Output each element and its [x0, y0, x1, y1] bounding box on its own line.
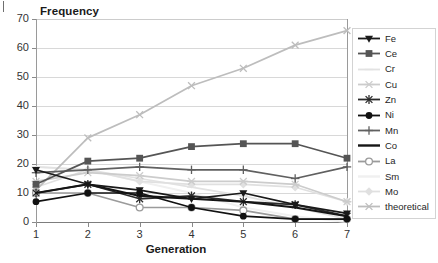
legend-item-fe[interactable]: Fe: [353, 31, 435, 46]
legend-label: Cr: [385, 64, 395, 74]
legend-swatch-sm-icon: [356, 170, 382, 183]
x-axis-tick-label: 3: [128, 228, 152, 240]
y-axis-tick-label: 70: [0, 12, 29, 24]
legend-item-zn[interactable]: Zn: [353, 92, 435, 107]
legend-item-theoretical[interactable]: theoretical: [353, 199, 435, 214]
legend-item-la[interactable]: La: [353, 153, 435, 168]
legend-swatch-mo-icon: [356, 185, 382, 198]
crop-mark-icon: [3, 1, 4, 12]
x-axis-tick-mark: [140, 223, 141, 227]
legend-swatch-la-icon: [356, 155, 382, 168]
x-axis-tick-label: 1: [24, 228, 48, 240]
plot-area: [36, 19, 348, 223]
legend-item-mn[interactable]: Mn: [353, 123, 435, 138]
legend-item-ni[interactable]: Ni: [353, 107, 435, 122]
x-axis-tick-label: 2: [76, 228, 100, 240]
legend-item-co[interactable]: Co: [353, 138, 435, 153]
legend-item-sm[interactable]: Sm: [353, 169, 435, 184]
legend-label: Co: [385, 141, 397, 151]
legend-label: Zn: [385, 95, 396, 105]
x-axis-tick-mark: [295, 223, 296, 227]
series-layer: [36, 19, 348, 223]
legend-swatch-mn-icon: [356, 124, 382, 137]
legend-label: Ce: [385, 49, 397, 59]
x-axis-tick-label: 5: [231, 228, 255, 240]
x-axis-tick-label: 7: [335, 228, 359, 240]
y-axis-tick-label: 60: [0, 41, 29, 53]
x-axis-title: Generation: [0, 243, 352, 255]
x-axis-tick-label: 6: [283, 228, 307, 240]
legend-swatch-ni-icon: [356, 109, 382, 122]
x-axis-tick-mark: [243, 223, 244, 227]
chart-legend: FeCeCrCuZnNiMnCoLaSmMotheoretical: [352, 28, 436, 219]
legend-label: Ni: [385, 110, 394, 120]
legend-label: La: [385, 156, 396, 166]
y-axis-tick-label: 40: [0, 99, 29, 111]
legend-swatch-fe-icon: [356, 32, 382, 45]
legend-swatch-cr-icon: [356, 63, 382, 76]
y-axis-tick-label: 10: [0, 186, 29, 198]
x-axis-tick-mark: [192, 223, 193, 227]
x-axis-tick-mark: [36, 223, 37, 227]
legend-swatch-zn-icon: [356, 93, 382, 106]
y-axis-tick-label: 0: [0, 215, 29, 227]
legend-item-ce[interactable]: Ce: [353, 46, 435, 61]
legend-swatch-cu-icon: [356, 78, 382, 91]
legend-swatch-ce-icon: [356, 47, 382, 60]
frequency-generation-line-chart: Frequency Generation 010203040506070 123…: [0, 0, 438, 263]
x-axis-tick-label: 4: [180, 228, 204, 240]
legend-label: Mo: [385, 187, 398, 197]
y-axis-tick-label: 20: [0, 157, 29, 169]
legend-item-mo[interactable]: Mo: [353, 184, 435, 199]
legend-label: theoretical: [385, 202, 429, 212]
legend-item-cr[interactable]: Cr: [353, 62, 435, 77]
x-axis-tick-mark: [347, 223, 348, 227]
legend-label: Mn: [385, 126, 398, 136]
legend-swatch-co-icon: [356, 139, 382, 152]
legend-label: Fe: [385, 34, 396, 44]
y-axis-tick-label: 50: [0, 70, 29, 82]
legend-item-cu[interactable]: Cu: [353, 77, 435, 92]
legend-swatch-theoretical-icon: [356, 200, 382, 213]
legend-label: Cu: [385, 80, 397, 90]
x-axis-tick-mark: [88, 223, 89, 227]
legend-label: Sm: [385, 172, 399, 182]
y-axis-tick-label: 30: [0, 128, 29, 140]
y-axis-title: Frequency: [40, 5, 99, 17]
